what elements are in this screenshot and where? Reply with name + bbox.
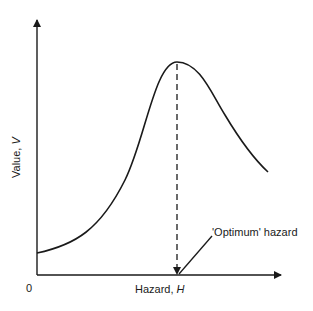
value-curve	[37, 62, 268, 253]
value-hazard-diagram: 'Optimum' hazard 0 Hazard, H Value, V	[0, 0, 313, 311]
x-axis-label: Hazard, H	[135, 283, 185, 295]
y-axis-label: Value, V	[10, 136, 22, 178]
annotation-label: 'Optimum' hazard	[212, 226, 298, 238]
origin-label: 0	[26, 282, 32, 294]
annotation-pointer	[179, 236, 212, 274]
diagram-canvas: 'Optimum' hazard 0 Hazard, H Value, V	[0, 0, 313, 311]
